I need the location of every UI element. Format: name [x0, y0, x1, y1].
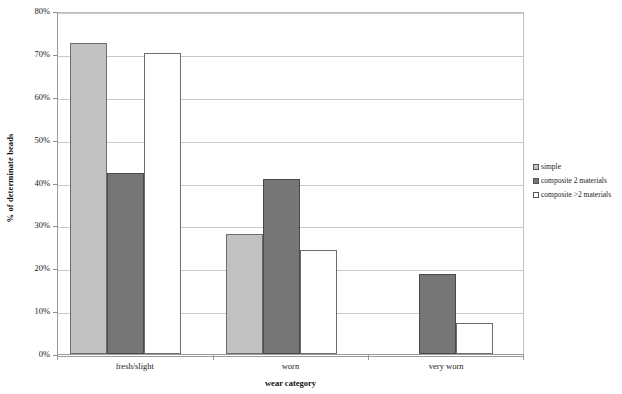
y-axis-tick-label: 30% [34, 219, 50, 232]
bar [263, 179, 300, 354]
legend-item-label: simple [541, 162, 561, 172]
plot-area [57, 12, 524, 355]
y-axis-ticks: 0%10%20%30%40%50%60%70%80% [0, 0, 57, 355]
x-axis-title: wear category [57, 378, 524, 388]
y-axis-tick-label: 40% [34, 177, 50, 190]
legend-swatch-composite-2-icon [533, 178, 539, 184]
legend-swatch-composite-more-icon [533, 192, 539, 198]
y-axis-tick-label: 50% [34, 134, 50, 147]
bar [456, 323, 493, 354]
bar [226, 234, 263, 354]
y-axis-tick-label: 60% [34, 91, 50, 104]
y-axis-tick-label: 80% [34, 5, 50, 18]
legend-item-label: composite 2 materials [541, 176, 607, 186]
y-axis-tick-label: 0% [39, 348, 50, 361]
legend-item: composite >2 materials [533, 190, 621, 201]
legend-item-label: composite >2 materials [541, 190, 611, 200]
bar [144, 53, 181, 354]
legend-item: simple [533, 162, 621, 173]
legend-swatch-simple-icon [533, 164, 539, 170]
bar-chart: % of determinate beads 0%10%20%30%40%50%… [0, 0, 622, 394]
legend-item: composite 2 materials [533, 176, 621, 187]
chart-legend: simplecomposite 2 materialscomposite >2 … [533, 162, 621, 204]
x-axis-category-label: worn [213, 361, 369, 371]
y-axis-tick-label: 70% [34, 48, 50, 61]
x-axis-category-label: fresh/slight [57, 361, 213, 371]
bar [70, 43, 107, 354]
bar [419, 274, 456, 354]
y-axis-tick-label: 20% [34, 262, 50, 275]
x-axis-category-label: very worn [368, 361, 524, 371]
x-axis-labels: fresh/slightwornvery worn [57, 358, 524, 376]
bar [107, 173, 144, 354]
bar [300, 250, 337, 354]
y-axis-tick-label: 10% [34, 305, 50, 318]
bars-layer [58, 13, 523, 354]
